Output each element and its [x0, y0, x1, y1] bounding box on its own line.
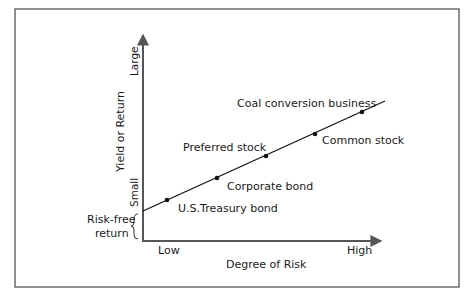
y-axis-title: Yield or Return — [114, 91, 127, 173]
label-coal: Coal conversion business — [237, 97, 376, 110]
label-treasury: U.S.Treasury bond — [178, 202, 278, 215]
y-label-large: Large — [128, 46, 140, 76]
risk-free-label-line2: return — [95, 227, 129, 240]
data-point-preferred — [264, 154, 269, 159]
x-axis-title: Degree of Risk — [226, 258, 307, 271]
label-preferred: Preferred stock — [183, 141, 267, 154]
data-point-coal — [360, 110, 365, 115]
x-label-high: High — [347, 244, 372, 257]
y-label-small: Small — [128, 178, 140, 207]
label-corporate: Corporate bond — [227, 180, 313, 193]
risk-return-diagram: U.S.Treasury bond Corporate bond Preferr… — [0, 0, 474, 306]
risk-free-label-line1: Risk-free — [87, 213, 136, 226]
label-common: Common stock — [322, 134, 405, 147]
data-point-treasury — [165, 198, 170, 203]
x-label-low: Low — [158, 244, 180, 257]
data-point-common — [313, 132, 318, 137]
data-point-corporate — [215, 176, 220, 181]
